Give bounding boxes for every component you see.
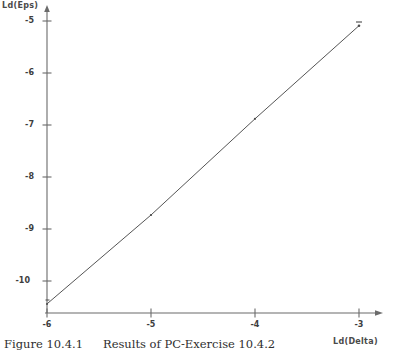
y-tick-label--10: -10 xyxy=(4,276,30,285)
data-point-marker xyxy=(254,118,256,120)
x-tick-label--5: -5 xyxy=(141,320,161,329)
x-tick-label--4: -4 xyxy=(245,320,265,329)
x-tick-label--3: -3 xyxy=(349,320,369,329)
y-tick-label--5: -5 xyxy=(8,16,34,25)
y-tick-label--9: -9 xyxy=(8,224,34,233)
figure-caption: Figure 10.4.1Results of PC-Exercise 10.4… xyxy=(0,337,397,351)
data-point-marker xyxy=(46,303,48,305)
figure-container: Ld(Eps) Ld(Delta) -5 -6 -7 -8 -9 -10 -6 … xyxy=(0,0,397,351)
y-axis-label: Ld(Eps) xyxy=(2,1,38,10)
y-tick-label--8: -8 xyxy=(8,172,34,181)
x-tick-label--6: -6 xyxy=(37,320,57,329)
y-tick-label--7: -7 xyxy=(8,120,34,129)
data-series-line xyxy=(47,26,359,304)
y-tick-label--6: -6 xyxy=(8,68,34,77)
plot-area xyxy=(0,0,397,351)
caption-number: Figure 10.4.1 xyxy=(4,337,83,351)
caption-text: Results of PC-Exercise 10.4.2 xyxy=(103,337,275,351)
x-axis-arrow-icon xyxy=(375,310,383,316)
data-point-marker xyxy=(150,214,152,216)
y-axis-arrow-icon xyxy=(44,5,50,12)
data-point-marker xyxy=(358,24,361,27)
